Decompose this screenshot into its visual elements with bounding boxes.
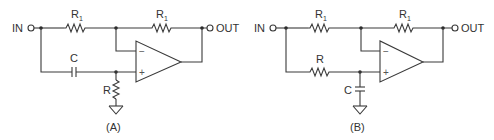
feedback-resistor-label-a: R1 bbox=[156, 8, 168, 22]
feedback-resistor-r1-a bbox=[150, 24, 173, 32]
ground-icon bbox=[353, 106, 367, 114]
input-terminal-b bbox=[270, 25, 276, 31]
shunt-capacitor-label-b: C bbox=[344, 84, 352, 96]
schematic-canvas: IN R1 R1 OUT − + C bbox=[0, 0, 494, 140]
wire bbox=[41, 28, 72, 72]
input-resistor-r1-a bbox=[64, 24, 87, 32]
opamp-plus-a: + bbox=[139, 67, 145, 78]
circuit-b: IN R1 R1 OUT − + R C bbox=[254, 8, 485, 133]
output-label-a: OUT bbox=[216, 22, 240, 34]
opamp-minus-b: − bbox=[383, 46, 389, 57]
shunt-resistor-r-a bbox=[113, 80, 119, 99]
series-resistor-label-b: R bbox=[316, 53, 324, 65]
input-label-b: IN bbox=[254, 22, 265, 34]
input-resistor-label-b: R1 bbox=[315, 8, 327, 22]
output-terminal-a bbox=[207, 25, 213, 31]
opamp-plus-b: + bbox=[383, 67, 389, 78]
wire bbox=[116, 28, 136, 51]
series-resistor-r-b bbox=[308, 68, 331, 76]
wire bbox=[423, 28, 443, 62]
wire bbox=[181, 28, 202, 62]
wire bbox=[286, 28, 308, 72]
caption-a: (A) bbox=[106, 121, 121, 133]
wire bbox=[361, 28, 380, 51]
circuit-a: IN R1 R1 OUT − + C bbox=[12, 8, 240, 133]
caption-b: (B) bbox=[350, 121, 365, 133]
shunt-resistor-label-a: R bbox=[103, 84, 111, 96]
feedback-resistor-label-b: R1 bbox=[399, 8, 411, 22]
input-label-a: IN bbox=[12, 22, 23, 34]
output-label-b: OUT bbox=[461, 22, 485, 34]
capacitor-label-a: C bbox=[70, 52, 78, 64]
opamp-minus-a: − bbox=[139, 46, 145, 57]
input-resistor-label-a: R1 bbox=[71, 8, 83, 22]
output-terminal-b bbox=[452, 25, 458, 31]
ground-icon bbox=[109, 106, 123, 114]
input-resistor-r1-b bbox=[308, 24, 331, 32]
feedback-resistor-r1-b bbox=[392, 24, 415, 32]
input-terminal-a bbox=[28, 25, 34, 31]
